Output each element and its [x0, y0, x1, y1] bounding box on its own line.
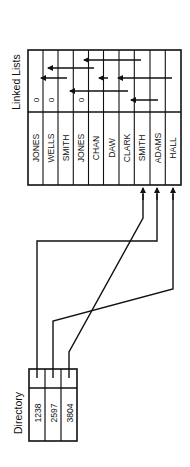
directory-key: 2597	[49, 403, 59, 422]
directory-keys: 1238 2597 3804	[33, 403, 75, 422]
record-name: JONES	[76, 133, 86, 162]
directory-key: 1238	[33, 403, 43, 422]
record-name: WELLS	[46, 133, 56, 162]
connector-3804	[69, 194, 143, 378]
record-name: SMITH	[61, 135, 71, 162]
connector-2597	[53, 194, 173, 378]
directory-title: Directory	[12, 391, 24, 434]
null-pointer: 0	[32, 97, 41, 102]
record-name: JONES	[31, 133, 41, 162]
null-pointer: 0	[47, 97, 56, 102]
record-name: SMITH	[137, 135, 147, 162]
record-name: HALL	[168, 137, 178, 159]
record-name: CLARK	[122, 133, 132, 162]
record-name: CHAN	[91, 136, 101, 160]
linked-lists-table	[28, 50, 181, 185]
record-name: DAW	[107, 137, 117, 158]
linked-lists-diagram: Linked Lists JONES WELLS SMITH JONES CHA…	[0, 0, 190, 467]
linked-lists-title-text: Linked Lists	[10, 54, 22, 109]
record-names: JONES WELLS SMITH JONES CHAN DAW CLARK S…	[31, 132, 179, 163]
directory-key: 3804	[65, 403, 75, 422]
null-pointer: 0	[77, 97, 86, 102]
diagram-canvas: Linked Lists JONES WELLS SMITH JONES CHA…	[0, 0, 190, 467]
table-border	[28, 50, 181, 185]
connector-1238	[37, 194, 157, 378]
record-name: ADAMS	[153, 132, 163, 163]
null-pointers: 0 0 0	[32, 97, 87, 102]
directory-connectors	[37, 188, 173, 378]
link-arrows	[41, 60, 172, 100]
linked-lists-title: Linked Lists	[10, 54, 22, 109]
